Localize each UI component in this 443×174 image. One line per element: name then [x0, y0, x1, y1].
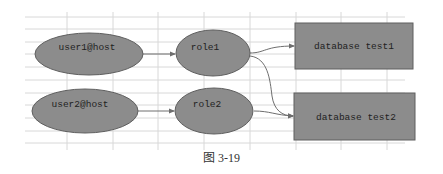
node-label: user1@host	[58, 42, 115, 53]
node-role1: role1	[176, 30, 250, 76]
edge-role1-db2	[250, 56, 293, 116]
node-label: database test1	[314, 41, 394, 52]
edge-role2-db2	[254, 111, 293, 116]
node-user2: user2@host	[32, 89, 138, 133]
node-label: database test2	[316, 112, 396, 123]
node-label: role1	[191, 42, 220, 53]
node-role2: role2	[175, 88, 253, 134]
node-db1: database test1	[295, 23, 413, 69]
edge-role1-db1	[250, 46, 294, 53]
node-db2: database test2	[294, 93, 415, 140]
figure-caption: 图 3-19	[0, 148, 443, 166]
node-label: user2@host	[51, 99, 108, 110]
node-label: role2	[193, 99, 222, 110]
node-user1: user1@host	[35, 33, 143, 75]
